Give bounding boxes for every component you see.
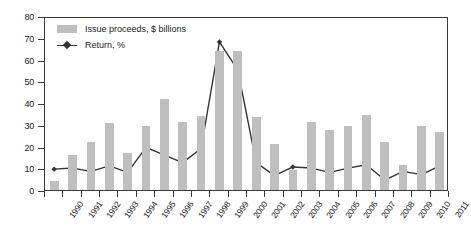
bar xyxy=(142,126,151,190)
x-tick-label: 1999 xyxy=(233,200,250,220)
x-tick-label: 2007 xyxy=(380,200,397,220)
bar xyxy=(178,122,187,191)
return-data-point-marker xyxy=(51,166,56,171)
x-tick-label: 2006 xyxy=(362,200,379,220)
x-tick-label: 1991 xyxy=(86,200,103,220)
x-tick-label: 2011 xyxy=(453,200,470,219)
x-tick-label: 2000 xyxy=(252,200,269,220)
x-tick-label: 1993 xyxy=(123,200,140,220)
x-tick-mark xyxy=(81,191,82,197)
x-tick-mark xyxy=(228,191,229,197)
bar xyxy=(362,115,371,190)
bar xyxy=(399,165,408,190)
y-tick-label: 70 xyxy=(24,34,34,43)
x-tick-mark xyxy=(301,191,302,197)
bar xyxy=(123,153,132,190)
x-tick-label: 1990 xyxy=(68,200,85,220)
x-tick-label: 1992 xyxy=(105,200,122,220)
x-tick-label: 2005 xyxy=(343,200,360,220)
bar-swatch-icon xyxy=(57,25,77,33)
legend-item-return: Return, % xyxy=(57,38,237,52)
bar xyxy=(435,132,444,190)
x-tick-label: 1994 xyxy=(141,200,158,220)
y-tick-label: 20 xyxy=(24,143,34,152)
y-tick-label: 10 xyxy=(24,165,34,174)
x-tick-label: 2010 xyxy=(435,200,452,220)
x-tick-label: 1996 xyxy=(178,200,195,220)
x-tick-label: 2009 xyxy=(417,200,434,220)
x-tick-mark xyxy=(338,191,339,197)
x-axis: 1990199119921993199419951996199719981999… xyxy=(44,191,448,245)
x-tick-mark xyxy=(154,191,155,197)
x-tick-label: 1995 xyxy=(160,200,177,220)
x-tick-mark xyxy=(430,191,431,197)
x-tick-label: 2003 xyxy=(307,200,324,220)
x-tick-mark xyxy=(264,191,265,197)
x-tick-label: 2001 xyxy=(270,200,287,220)
bar xyxy=(160,99,169,190)
x-tick-mark xyxy=(319,191,320,197)
x-tick-mark xyxy=(283,191,284,197)
x-tick-mark xyxy=(191,191,192,197)
bar xyxy=(87,142,96,190)
chart-legend: Issue proceeds, $ billions Return, % xyxy=(57,22,237,54)
bar xyxy=(270,144,279,190)
x-tick-label: 2002 xyxy=(288,200,305,220)
x-tick-mark xyxy=(99,191,100,197)
x-tick-mark xyxy=(375,191,376,197)
y-tick-label: 0 xyxy=(29,187,34,196)
bar xyxy=(380,142,389,190)
x-tick-mark xyxy=(136,191,137,197)
return-data-point-marker xyxy=(290,164,295,169)
bar xyxy=(289,170,298,190)
x-tick-mark xyxy=(117,191,118,197)
x-tick-mark xyxy=(448,191,449,197)
y-tick-label: 60 xyxy=(24,56,34,65)
x-tick-label: 1997 xyxy=(196,200,213,220)
bar xyxy=(344,126,353,190)
line-marker-swatch-icon xyxy=(57,41,77,49)
x-tick-label: 1998 xyxy=(215,200,232,220)
x-tick-mark xyxy=(246,191,247,197)
bar xyxy=(233,51,242,190)
bar xyxy=(105,123,114,190)
bar xyxy=(50,181,59,190)
x-tick-mark xyxy=(356,191,357,197)
y-tick-label: 30 xyxy=(24,121,34,130)
y-tick-label: 50 xyxy=(24,78,34,87)
y-tick-label: 40 xyxy=(24,100,34,109)
x-tick-mark xyxy=(44,191,45,197)
y-tick-label: 80 xyxy=(24,13,34,22)
bar xyxy=(252,117,261,190)
legend-item-issue-proceeds: Issue proceeds, $ billions xyxy=(57,22,237,36)
bar xyxy=(417,126,426,190)
x-tick-mark xyxy=(209,191,210,197)
bar xyxy=(68,155,77,190)
x-tick-mark xyxy=(411,191,412,197)
bar xyxy=(307,122,316,191)
y-axis: 01020304050607080 xyxy=(0,0,44,192)
plot-area: Issue proceeds, $ billions Return, % xyxy=(44,17,448,191)
bar xyxy=(215,51,224,190)
x-tick-mark xyxy=(393,191,394,197)
x-tick-label: 2004 xyxy=(325,200,342,220)
legend-label-return: Return, % xyxy=(85,41,125,50)
legend-label-issue-proceeds: Issue proceeds, $ billions xyxy=(85,25,186,34)
x-tick-label: 2008 xyxy=(398,200,415,220)
x-tick-mark xyxy=(62,191,63,197)
x-tick-mark xyxy=(173,191,174,197)
bar xyxy=(325,130,334,190)
bar xyxy=(197,116,206,190)
